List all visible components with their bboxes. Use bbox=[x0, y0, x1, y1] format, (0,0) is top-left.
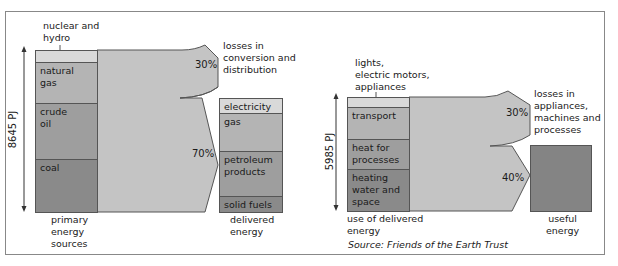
right-total-label: 5985 PJ bbox=[324, 133, 335, 171]
segment-coal: coal bbox=[35, 159, 98, 213]
left-total-label: 8645 PJ bbox=[7, 111, 18, 149]
delivered-electricity: electricity bbox=[219, 98, 283, 114]
source-credit: Source: Friends of the Earth Trust bbox=[348, 239, 508, 250]
left-out-pct: 70% bbox=[192, 148, 214, 160]
left-loss-label: losses in conversion and distribution bbox=[223, 40, 296, 76]
delivered-petroleum-products: petroleum products bbox=[219, 151, 283, 197]
useful-energy-caption: useful energy bbox=[546, 213, 579, 237]
segment-natural-gas: natural gas bbox=[35, 62, 98, 104]
delivered-solid-fuels: solid fuels bbox=[219, 196, 283, 213]
primary-energy-caption: primary energy sources bbox=[51, 214, 88, 250]
lights-motors-label: lights, electric motors, appliances bbox=[355, 57, 430, 93]
right-loss-label: losses in appliances, machines and proce… bbox=[534, 88, 601, 136]
segment-transport: transport bbox=[347, 107, 410, 140]
right-out-pct: 40% bbox=[502, 172, 524, 184]
useful-energy-box bbox=[530, 145, 592, 212]
use-delivered-caption: use of delivered energy bbox=[347, 213, 423, 237]
nuclear-hydro-label: nuclear and hydro bbox=[43, 20, 99, 44]
segment-crude-oil: crude oil bbox=[35, 103, 98, 160]
segment-heat-processes: heat for processes bbox=[347, 139, 410, 170]
right-loss-pct: 30% bbox=[506, 107, 528, 119]
segment-heating-water-space: heating water and space bbox=[347, 169, 410, 212]
delivered-energy-caption: delivered energy bbox=[230, 214, 274, 238]
left-loss-pct: 30% bbox=[195, 59, 217, 71]
delivered-gas: gas bbox=[219, 113, 283, 152]
